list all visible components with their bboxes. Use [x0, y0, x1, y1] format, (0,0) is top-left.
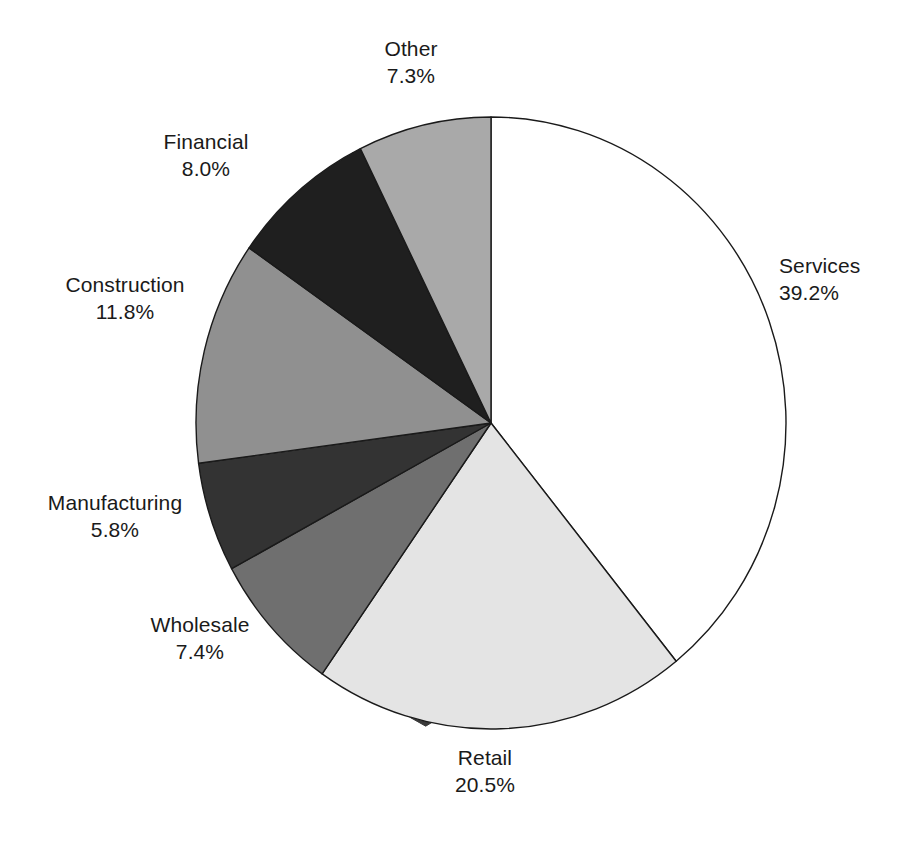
- pie-label-construction: Construction 11.8%: [30, 272, 220, 325]
- pie-label-financial-name: Financial: [116, 129, 296, 156]
- pie-label-financial: Financial 8.0%: [116, 129, 296, 182]
- pie-label-services-value: 39.2%: [779, 280, 919, 307]
- pie-label-wholesale: Wholesale 7.4%: [115, 612, 285, 665]
- pie-label-other: Other 7.3%: [331, 36, 491, 89]
- pie-label-other-value: 7.3%: [331, 63, 491, 90]
- pie-label-services-name: Services: [779, 253, 919, 280]
- pie-label-construction-value: 11.8%: [30, 299, 220, 326]
- pie-label-manufacturing: Manufacturing 5.8%: [10, 490, 220, 543]
- pie-label-manufacturing-value: 5.8%: [10, 517, 220, 544]
- pie-chart: Other 7.3% Financial 8.0% Construction 1…: [0, 0, 919, 843]
- pie-label-wholesale-name: Wholesale: [115, 612, 285, 639]
- pie-label-manufacturing-name: Manufacturing: [10, 490, 220, 517]
- pie-label-retail: Retail 20.5%: [420, 745, 550, 798]
- pie-label-retail-name: Retail: [420, 745, 550, 772]
- pie-label-financial-value: 8.0%: [116, 156, 296, 183]
- pie-chart-canvas: [0, 0, 919, 843]
- pie-label-construction-name: Construction: [30, 272, 220, 299]
- pie-label-wholesale-value: 7.4%: [115, 639, 285, 666]
- pie-label-other-name: Other: [331, 36, 491, 63]
- pie-label-retail-value: 20.5%: [420, 772, 550, 799]
- pie-label-services: Services 39.2%: [779, 253, 919, 306]
